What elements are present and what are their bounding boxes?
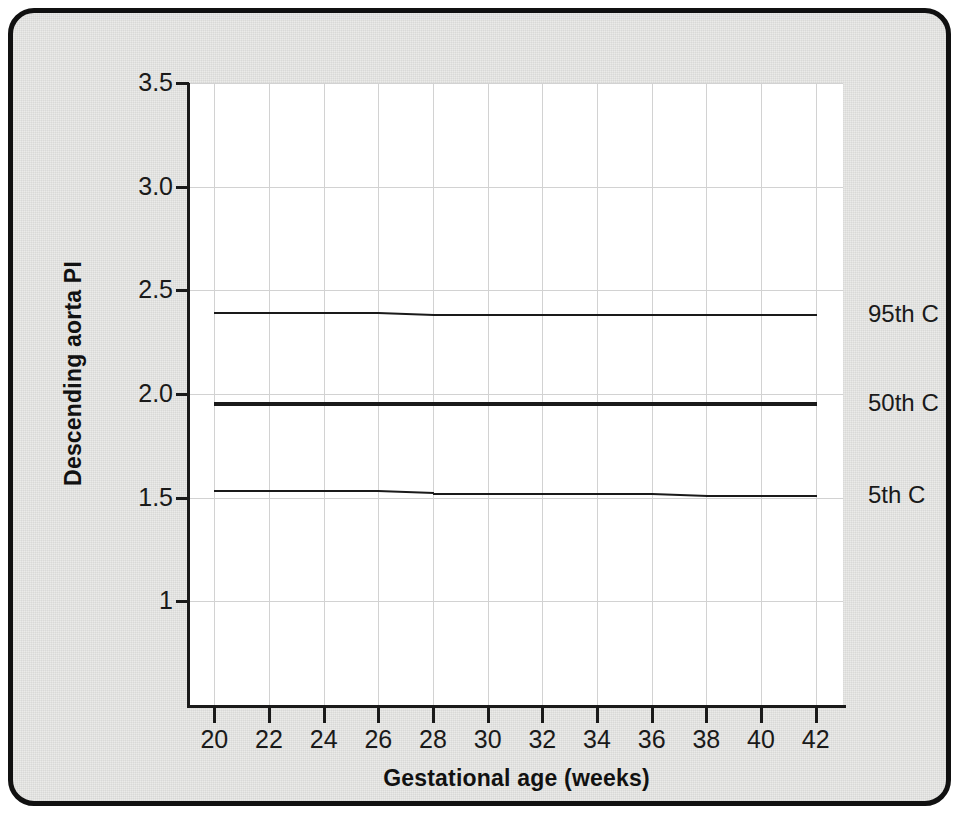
series-line-segment <box>433 402 489 406</box>
x-axis-tick <box>432 708 435 723</box>
series-line-segment <box>378 402 434 406</box>
x-axis-tick <box>323 708 326 723</box>
series-line-segment <box>542 493 598 495</box>
series-line-segment <box>706 495 762 497</box>
y-axis-tick-label: 1 <box>53 588 173 613</box>
series-line-segment <box>214 312 270 314</box>
series-label-5th-c: 5th C <box>868 483 925 507</box>
series-line-segment <box>706 402 762 406</box>
series-line-segment <box>706 314 762 316</box>
x-axis-tick <box>377 708 380 723</box>
x-axis-tick-label: 42 <box>776 727 856 752</box>
x-axis-tick <box>705 708 708 723</box>
series-line-segment <box>542 402 598 406</box>
gridline-horizontal <box>187 83 843 84</box>
gridline-horizontal <box>187 394 843 395</box>
series-line-segment <box>597 314 653 316</box>
series-line-segment <box>761 402 817 406</box>
y-axis-spine <box>187 83 190 707</box>
x-axis-tick <box>651 708 654 723</box>
y-axis-tick-label: 1.5 <box>53 485 173 510</box>
x-axis-tick <box>815 708 818 723</box>
gridline-horizontal <box>187 187 843 188</box>
y-axis-title: Descending aorta PI <box>60 261 87 486</box>
series-line-segment <box>214 490 270 492</box>
series-label-95th-c: 95th C <box>868 302 939 326</box>
series-line-segment <box>269 402 325 406</box>
x-axis-title: Gestational age (weeks) <box>187 765 846 792</box>
series-line-segment <box>324 402 380 406</box>
series-line-segment <box>597 493 653 495</box>
x-axis-tick <box>760 708 763 723</box>
plot-area <box>187 83 843 705</box>
series-line-segment <box>433 493 489 495</box>
series-line-segment <box>597 402 653 406</box>
gridline-horizontal <box>187 601 843 602</box>
series-line-segment <box>761 314 817 316</box>
series-line-segment <box>652 314 708 316</box>
x-axis-tick <box>213 708 216 723</box>
series-line-segment <box>324 312 380 314</box>
series-line-segment <box>652 402 708 406</box>
gridline-horizontal <box>187 290 843 291</box>
series-label-50th-c: 50th C <box>868 391 939 415</box>
series-line-segment <box>542 314 598 316</box>
chart-canvas: 11.52.02.53.03.5 20222426283032343638404… <box>13 13 946 801</box>
series-line-segment <box>488 493 544 495</box>
gridline-horizontal <box>187 498 843 499</box>
series-line-segment <box>488 314 544 316</box>
series-line-segment <box>324 490 380 492</box>
figure-frame: 11.52.02.53.03.5 20222426283032343638404… <box>8 8 951 806</box>
series-line-segment <box>433 314 489 316</box>
y-axis-tick-label: 3.5 <box>53 70 173 95</box>
x-axis-tick <box>487 708 490 723</box>
series-line-segment <box>488 402 544 406</box>
x-axis-spine <box>187 705 846 708</box>
series-line-segment <box>214 402 270 406</box>
series-line-segment <box>761 495 817 497</box>
series-line-segment <box>269 312 325 314</box>
series-line-segment <box>269 490 325 492</box>
y-axis-tick-label: 3.0 <box>53 174 173 199</box>
x-axis-tick <box>596 708 599 723</box>
x-axis-tick <box>268 708 271 723</box>
x-axis-tick <box>541 708 544 723</box>
